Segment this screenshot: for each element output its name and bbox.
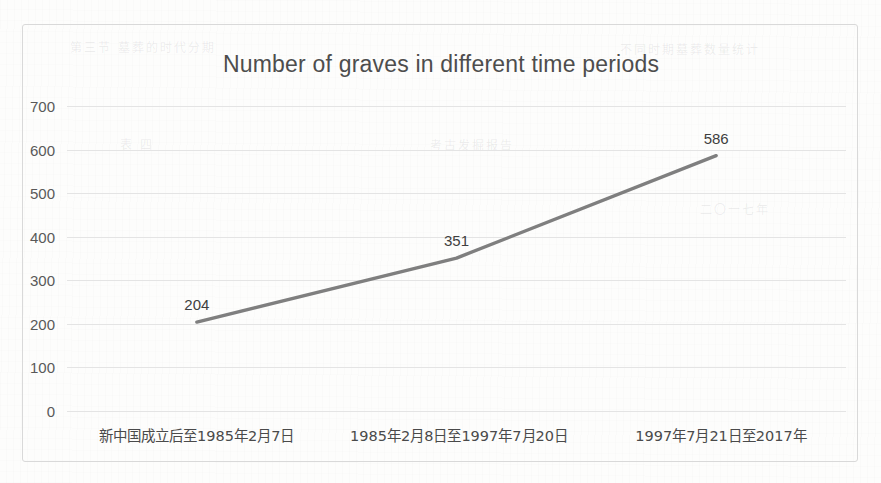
point-label-0: 204	[184, 296, 209, 313]
ytick-label-200: 200	[30, 315, 55, 332]
ytick-label-0: 0	[47, 403, 55, 420]
ytick-label-500: 500	[30, 185, 55, 202]
xtick-label-1: 1985年2月8日至1997年7月20日	[350, 424, 568, 445]
xtick-label-0: 新中国成立后至1985年2月7日	[99, 424, 294, 445]
xtick-label-2: 1997年7月21日至2017年	[635, 424, 806, 445]
ytick-label-300: 300	[30, 272, 55, 289]
ytick-label-700: 700	[30, 98, 55, 115]
gridline	[67, 411, 846, 412]
point-label-1: 351	[444, 232, 469, 249]
ytick-label-400: 400	[30, 228, 55, 245]
data-series-line	[67, 106, 846, 411]
ytick-label-100: 100	[30, 359, 55, 376]
point-label-2: 586	[704, 130, 729, 147]
scanned-page: 第三节 墓葬的时代分期 不同时期墓葬数量统计 表 四 考古发掘报告 二〇一七年 …	[0, 0, 881, 483]
plot-area: 700 600 500 400 300 200 100 0 204 351 58…	[67, 106, 846, 411]
chart-frame[interactable]: Number of graves in different time perio…	[22, 24, 858, 462]
chart-title: Number of graves in different time perio…	[23, 51, 859, 78]
ytick-label-600: 600	[30, 141, 55, 158]
